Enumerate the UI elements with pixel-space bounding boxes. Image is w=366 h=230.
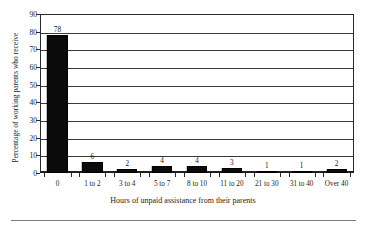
- bar: [152, 166, 172, 173]
- y-axis-tick-mark: [36, 173, 40, 174]
- bar-slot: 1: [284, 14, 319, 173]
- x-axis-tick-label: 1 to 2: [84, 180, 100, 188]
- x-axis-tick-mark: [184, 173, 185, 177]
- x-axis-tick-mark: [210, 173, 211, 177]
- x-axis-tick-mark: [44, 173, 45, 177]
- x-axis-tick-label: 21 to 30: [255, 180, 279, 188]
- bar: [82, 162, 102, 173]
- x-axis-tick-mark: [79, 173, 80, 177]
- bar-value-label: 6: [91, 153, 95, 161]
- x-axis-tick-mark: [323, 173, 324, 177]
- x-axis-tick-label: 8 to 10: [187, 180, 207, 188]
- x-axis-tick-label: 11 to 20: [220, 180, 243, 188]
- x-axis-tick-mark: [289, 173, 290, 177]
- bar-value-label: 78: [54, 26, 61, 34]
- bar: [47, 35, 67, 173]
- x-axis-tick-mark: [254, 173, 255, 177]
- y-axis-tick-label: 80: [15, 27, 37, 36]
- x-axis-tick-mark: [350, 173, 351, 177]
- y-axis-tick-label: 90: [15, 10, 37, 19]
- y-axis-tick-label: 30: [15, 116, 37, 125]
- bar-slot: 4: [145, 14, 180, 173]
- y-axis-tick-label: 70: [15, 45, 37, 54]
- x-axis-tick-mark: [140, 173, 141, 177]
- bar-value-label: 4: [160, 157, 164, 165]
- bar-value-label: 4: [195, 157, 199, 165]
- x-axis-tick-mark: [245, 173, 246, 177]
- x-axis-tick-label: Over 40: [325, 180, 348, 188]
- x-axis-tick-label: 3 to 4: [119, 180, 135, 188]
- bar: [326, 169, 346, 173]
- y-axis-tick-label: 50: [15, 80, 37, 89]
- page-divider-rule: [11, 220, 356, 221]
- x-axis-title: Hours of unpaid assistance from their pa…: [0, 196, 366, 205]
- x-axis-tick-mark: [280, 173, 281, 177]
- bar: [187, 166, 207, 173]
- bar-series: 7862443112: [40, 14, 354, 173]
- x-axis-tick-mark: [105, 173, 106, 177]
- bar: [222, 168, 242, 173]
- y-axis-tick-label: 0: [15, 169, 37, 178]
- bar-chart-figure: Percentage of working parents who receiv…: [0, 0, 366, 230]
- bar-slot: 2: [319, 14, 354, 173]
- bar-value-label: 2: [125, 160, 129, 168]
- bar-value-label: 3: [230, 159, 234, 167]
- x-axis-tick-mark: [219, 173, 220, 177]
- bar-slot: 6: [75, 14, 110, 173]
- y-axis-tick-label: 20: [15, 133, 37, 142]
- x-axis-tick-label: 5 to 7: [154, 180, 170, 188]
- x-axis-tick-mark: [149, 173, 150, 177]
- bar: [117, 169, 137, 173]
- y-axis-tick-label: 10: [15, 151, 37, 160]
- x-axis-tick-mark: [175, 173, 176, 177]
- bar-slot: 4: [180, 14, 215, 173]
- bar-value-label: 1: [300, 162, 304, 170]
- bar-value-label: 1: [265, 162, 269, 170]
- x-axis-tick-mark: [71, 173, 72, 177]
- bar: [292, 171, 312, 174]
- x-axis-tick-mark: [315, 173, 316, 177]
- x-axis-tick-label: 0: [56, 180, 60, 188]
- bar-slot: 3: [214, 14, 249, 173]
- bar-value-label: 2: [335, 160, 339, 168]
- bar-slot: 1: [249, 14, 284, 173]
- y-axis-tick-label: 60: [15, 63, 37, 72]
- y-axis-tick-label: 40: [15, 98, 37, 107]
- x-axis-tick-mark: [114, 173, 115, 177]
- bar-slot: 78: [40, 14, 75, 173]
- x-axis-tick-label: 31 to 40: [290, 180, 314, 188]
- bar: [257, 171, 277, 174]
- bar-slot: 2: [110, 14, 145, 173]
